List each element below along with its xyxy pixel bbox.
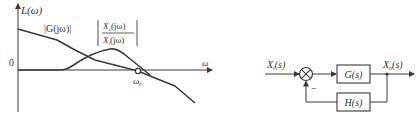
- feedback-block-label: H(s): [344, 97, 363, 109]
- svg-text:Xo(jω): Xo(jω): [102, 21, 125, 32]
- forward-block-label: G(s): [345, 69, 363, 81]
- feedback-line-right: [370, 74, 387, 102]
- summing-junction: [300, 68, 313, 81]
- figure-canvas: L(ω) 0 ω ωc |G(jω)| Xo(jω) Xi(jω): [0, 0, 419, 125]
- output-label: Xo(s): [382, 59, 403, 71]
- crossover-point-marker: [135, 68, 140, 73]
- block-diagram: Xi(s) G(s) Xo(s) H(s) −: [265, 59, 414, 111]
- closed-loop-magnitude-curve: [18, 49, 150, 75]
- feedback-sign: −: [311, 83, 317, 94]
- svg-text:Xi(jω): Xi(jω): [102, 35, 124, 46]
- bode-plot: L(ω) 0 ω ωc |G(jω)| Xo(jω) Xi(jω): [9, 4, 212, 112]
- open-loop-curve-label: |G(jω)|: [44, 23, 71, 35]
- closed-loop-curve-label: Xo(jω) Xi(jω): [98, 20, 137, 46]
- input-label: Xi(s): [266, 59, 286, 71]
- crossover-label: ωc: [133, 76, 142, 87]
- origin-label: 0: [9, 57, 14, 68]
- x-axis-label: ω: [202, 58, 208, 68]
- y-axis-label: L(ω): [20, 4, 43, 17]
